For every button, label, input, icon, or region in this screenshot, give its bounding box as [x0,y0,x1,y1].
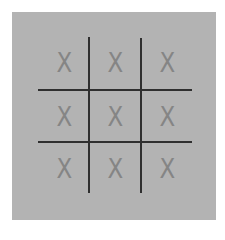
cell-r1-c2[interactable]: X [142,91,192,141]
cell-r2-c1[interactable]: X [90,143,140,193]
cell-r0-c2[interactable]: X [142,37,192,87]
cell-r2-c0[interactable]: X [39,143,89,193]
x-mark: X [107,49,123,76]
cell-r0-c1[interactable]: X [90,37,140,87]
x-mark: X [107,155,123,182]
x-mark: X [159,155,175,182]
x-mark: X [107,103,123,130]
x-mark: X [159,49,175,76]
cell-r2-c2[interactable]: X [142,143,192,193]
x-mark: X [159,103,175,130]
cell-r0-c0[interactable]: X [39,37,89,87]
cell-r1-c1[interactable]: X [90,91,140,141]
x-mark: X [56,49,72,76]
cell-r1-c0[interactable]: X [39,91,89,141]
x-mark: X [56,155,72,182]
x-mark: X [56,103,72,130]
